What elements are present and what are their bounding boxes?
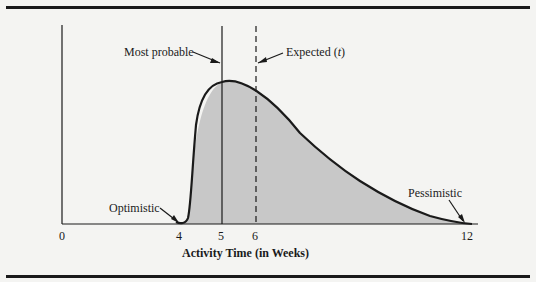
tick-12: 12 xyxy=(461,229,473,243)
x-axis-label: Activity Time (in Weeks) xyxy=(182,246,309,260)
tick-6: 6 xyxy=(252,229,258,243)
top-rule xyxy=(6,6,530,9)
figure-frame: Most probable Expected (t) Optimistic Pe… xyxy=(0,0,536,282)
most-probable-arrowhead-icon xyxy=(210,58,220,63)
optimistic-label: Optimistic xyxy=(109,201,160,215)
expected-label: Expected (t) xyxy=(286,45,345,59)
bottom-rule xyxy=(6,275,530,278)
expected-arrowhead-icon xyxy=(258,57,267,63)
tick-0: 0 xyxy=(59,229,65,243)
most-probable-label: Most probable xyxy=(124,45,194,59)
tick-4: 4 xyxy=(176,229,182,243)
beta-distribution-figure: Most probable Expected (t) Optimistic Pe… xyxy=(0,0,536,282)
tick-5: 5 xyxy=(218,229,224,243)
distribution-area xyxy=(180,81,472,224)
pessimistic-label: Pessimistic xyxy=(408,186,462,200)
optimistic-arrowhead-icon xyxy=(171,215,179,223)
